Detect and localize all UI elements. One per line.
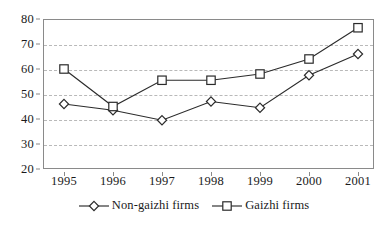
x-axis-tick-label: 1999 <box>247 175 273 188</box>
x-axis-tick-label: 1995 <box>51 175 77 188</box>
x-axis-tick-label: 2001 <box>345 175 371 188</box>
gridline <box>44 70 373 71</box>
plot-area <box>43 19 374 169</box>
chart-legend: Non-gaizhi firmsGaizhi firms <box>0 198 388 213</box>
y-axis-tick-label: 40 <box>21 113 34 126</box>
gridline <box>44 120 373 121</box>
gridline <box>44 145 373 146</box>
y-axis-tick-mark <box>36 119 40 120</box>
y-axis-tick-label: 30 <box>21 138 34 151</box>
legend-diamond-marker-icon <box>79 199 109 213</box>
y-axis-tick-label: 80 <box>21 13 34 26</box>
gridline <box>44 95 373 96</box>
y-axis-tick-label: 50 <box>21 88 34 101</box>
x-axis: 1995199619971998199920002001 <box>43 172 374 194</box>
y-axis-tick-mark <box>36 19 40 20</box>
x-axis-tick-label: 2000 <box>296 175 322 188</box>
line-chart-figure: 20304050607080 1995199619971998199920002… <box>0 0 388 229</box>
legend-item-label: Gaizhi firms <box>245 198 309 213</box>
legend-item: Non-gaizhi firms <box>79 198 199 213</box>
x-axis-tick-label: 1996 <box>100 175 126 188</box>
y-axis-tick-label: 20 <box>21 163 34 176</box>
x-axis-tick-label: 1998 <box>198 175 224 188</box>
y-axis-tick-mark <box>36 44 40 45</box>
gridline <box>44 45 373 46</box>
y-axis-tick-label: 70 <box>21 38 34 51</box>
y-axis-tick-mark <box>36 144 40 145</box>
y-axis-tick-mark <box>36 94 40 95</box>
legend-item: Gaizhi firms <box>212 198 309 213</box>
x-axis-tick-label: 1997 <box>149 175 175 188</box>
y-axis-tick-mark <box>36 69 40 70</box>
legend-square-marker-icon <box>212 199 242 213</box>
legend-item-label: Non-gaizhi firms <box>112 198 199 213</box>
y-axis-tick-label: 60 <box>21 63 34 76</box>
y-axis: 20304050607080 <box>0 19 40 169</box>
y-axis-tick-mark <box>36 169 40 170</box>
